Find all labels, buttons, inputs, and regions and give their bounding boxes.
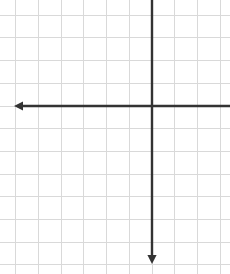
coordinate-plane-canvas xyxy=(0,0,230,274)
coordinate-plane-svg xyxy=(0,0,230,274)
canvas-background xyxy=(0,0,230,274)
